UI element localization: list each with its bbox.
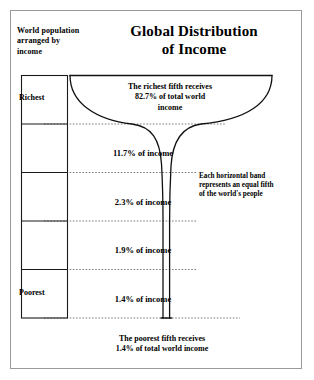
band-value-fifth-fifth: 1.4% of income xyxy=(88,294,198,304)
band-value-fourth-fifth: 1.9% of income xyxy=(88,245,198,255)
annotation-equal-fifth-line-1: Each horizontal band xyxy=(199,172,301,181)
population-column-outline xyxy=(22,76,68,319)
page-title: Global Distribution of Income xyxy=(96,22,292,58)
population-column xyxy=(22,76,68,319)
band-value-third-fifth: 2.3% of income xyxy=(88,197,198,207)
annotation-equal-fifth: Each horizontal band represents an equal… xyxy=(199,172,301,200)
callout-richest-line-3: income xyxy=(110,103,230,113)
callout-poorest-line-2: 1.4% of total world income xyxy=(82,344,242,354)
axis-label-line-2: population xyxy=(41,26,79,35)
page-title-line-2: of Income xyxy=(96,40,292,58)
axis-label-line-3: arranged xyxy=(17,36,49,45)
band-value-second-fifth: 11.7% of income xyxy=(88,148,198,158)
annotation-equal-fifth-line-2: represents an equal fifth xyxy=(199,181,301,190)
axis-label-line-1: World xyxy=(17,26,39,35)
callout-richest-line-2: 82.7% of total world xyxy=(110,92,230,102)
callout-richest-line-1: The richest fifth receives xyxy=(110,82,230,92)
income-distribution-figure: World population arranged by income Glob… xyxy=(0,0,314,380)
axis-label-world-population: World population arranged by income xyxy=(17,26,81,57)
page-title-line-1: Global Distribution xyxy=(96,22,292,40)
band-label-poorest: Poorest xyxy=(19,288,65,297)
callout-richest-fifth: The richest fifth receives 82.7% of tota… xyxy=(110,82,230,113)
band-label-richest: Richest xyxy=(19,93,65,102)
callout-poorest-fifth: The poorest fifth receives 1.4% of total… xyxy=(82,334,242,355)
callout-poorest-line-1: The poorest fifth receives xyxy=(82,334,242,344)
annotation-equal-fifth-line-3: of the world's people xyxy=(199,190,301,199)
